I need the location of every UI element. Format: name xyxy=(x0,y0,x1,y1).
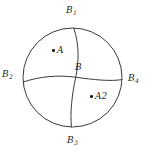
boundary-label-b1-base: B xyxy=(66,5,73,15)
interior-point-a-label: A xyxy=(57,46,64,55)
interior-point-a2: A2 xyxy=(90,92,107,101)
center-label-b-base: B xyxy=(75,62,82,72)
horizontal-arc xyxy=(23,76,122,82)
boundary-label-b1-sub: 1 xyxy=(73,9,77,16)
boundary-label-b1: B1 xyxy=(66,6,77,15)
boundary-label-b2: B2 xyxy=(2,70,13,79)
interior-point-a2-label: A2 xyxy=(95,92,107,101)
outer-circle xyxy=(23,28,122,127)
boundary-label-b4-sub: 4 xyxy=(135,77,139,84)
boundary-label-b3-sub: 3 xyxy=(74,139,78,146)
boundary-label-b4-base: B xyxy=(128,73,135,83)
interior-point-a2-sub: 2 xyxy=(102,91,108,101)
boundary-label-b3: B3 xyxy=(67,136,78,145)
interior-point-a: A xyxy=(52,46,64,55)
boundary-label-b3-base: B xyxy=(67,135,74,145)
boundary-label-b2-base: B xyxy=(2,69,9,79)
point-dot-icon xyxy=(52,49,55,52)
boundary-label-b4: B4 xyxy=(128,74,139,83)
boundary-label-b2-sub: 2 xyxy=(9,73,13,80)
geometric-figure: B1 B2 B4 B3 B A A2 xyxy=(0,0,153,154)
center-label-b: B xyxy=(75,63,82,72)
point-dot-icon xyxy=(90,95,93,98)
interior-point-a-base: A xyxy=(57,45,64,55)
